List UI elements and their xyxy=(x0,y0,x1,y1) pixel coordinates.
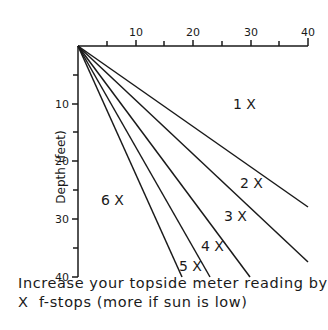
region-label-3x: 3 X xyxy=(224,208,247,224)
x-tick-label: 40 xyxy=(301,26,315,39)
boundary-line-1x-2x xyxy=(78,46,308,207)
boundary-line-4x-5x xyxy=(78,46,210,277)
region-label-5x: 5 X xyxy=(179,258,202,274)
caption-line-1: Increase your topside meter reading by xyxy=(18,275,328,291)
y-tick-label: 30 xyxy=(55,213,69,226)
y-tick-label: 10 xyxy=(55,98,69,111)
boundary-line-5x-6x xyxy=(78,46,182,277)
x-tick-label: 30 xyxy=(244,26,258,39)
caption-line-2: X f-stops (more if sun is low) xyxy=(18,294,248,310)
chart-caption: Increase your topside meter reading by X… xyxy=(18,274,328,312)
boundary-line-2x-3x xyxy=(78,46,308,262)
x-tick-label: 20 xyxy=(186,26,200,39)
y-axis-title: Depth (feet) xyxy=(54,130,68,203)
boundary-line-3x-4x xyxy=(78,46,250,277)
region-label-1x: 1 X xyxy=(233,96,256,112)
region-label-6x: 6 X xyxy=(101,192,124,208)
region-label-4x: 4 X xyxy=(201,238,224,254)
region-label-2x: 2 X xyxy=(240,175,263,191)
x-tick-label: 10 xyxy=(129,26,143,39)
